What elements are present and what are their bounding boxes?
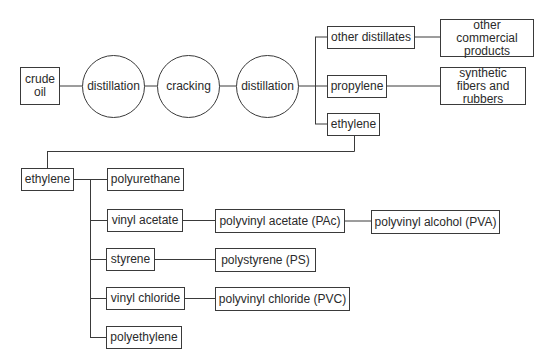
polyethylene-node: polyethylene [106,326,182,349]
cracking-node: cracking [157,55,220,118]
vinyl-acetate-node: vinyl acetate [107,209,183,232]
synthetic-fibers-rubbers-node: synthetic fibers and rubbers [440,67,526,105]
polyvinyl-chloride-node: polyvinyl chloride (PVC) [215,287,350,311]
distillation-node-2: distillation [236,55,299,118]
other-distillates-node: other distillates [327,26,415,49]
ethylene-main-node: ethylene [21,168,74,191]
crude-oil-node: crude oil [20,67,60,105]
styrene-node: styrene [106,248,155,271]
propylene-node: propylene [327,75,387,98]
polyvinyl-alcohol-node: polyvinyl alcohol (PVA) [371,210,500,234]
ethylene-top-node: ethylene [327,113,380,136]
other-commercial-products-node: other commercial products [440,19,534,57]
polyvinyl-acetate-node: polyvinyl acetate (PAc) [215,209,345,233]
vinyl-chloride-node: vinyl chloride [106,287,185,310]
distillation-node-1: distillation [82,55,145,118]
polystyrene-node: polystyrene (PS) [215,248,316,272]
petrochemical-flow-diagram: crude oil distillation cracking distilla… [0,0,546,364]
polyurethane-node: polyurethane [107,168,184,191]
